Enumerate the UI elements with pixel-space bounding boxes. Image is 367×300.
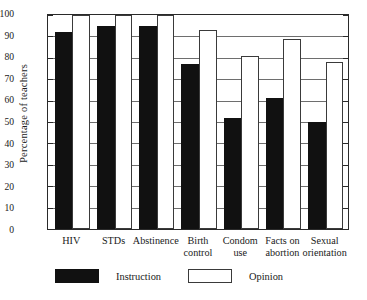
bar-group <box>220 15 262 229</box>
bar-opinion <box>326 62 344 229</box>
bar-instruction <box>139 26 157 229</box>
x-axis-tick-label-line: Sexual <box>292 235 358 247</box>
axis-tick-mark <box>48 229 53 230</box>
y-axis-tick-label: 30 <box>0 160 14 170</box>
bar-instruction <box>224 118 242 229</box>
y-axis-tick-label: 10 <box>0 203 14 213</box>
bar-opinion <box>72 15 90 229</box>
legend-label: Opinion <box>249 271 283 282</box>
legend-item: Opinion <box>188 269 283 283</box>
legend-swatch-instruction <box>55 269 99 283</box>
y-axis-tick-label: 50 <box>0 117 14 127</box>
y-axis-tick-label: 20 <box>0 182 14 192</box>
y-axis-tick-label: 80 <box>0 52 14 62</box>
legend-item: Instruction <box>55 269 161 283</box>
y-axis-title: Percentage of teachers <box>18 0 29 229</box>
bar-instruction <box>55 32 73 229</box>
bar-group <box>305 15 347 229</box>
bar-chart-figure: Percentage of teachers 01020304050607080… <box>0 0 367 300</box>
legend-swatch-opinion <box>188 269 232 283</box>
bar-group <box>93 15 135 229</box>
x-axis-tick-label: Sexualorientation <box>292 235 358 258</box>
bar-opinion <box>157 15 175 229</box>
bar-opinion <box>115 15 133 229</box>
x-axis-tick-label-line: orientation <box>292 247 358 259</box>
y-axis-tick-label: 60 <box>0 95 14 105</box>
bar-group <box>136 15 178 229</box>
y-axis-tick-label: 100 <box>0 9 14 19</box>
y-axis-tick-label: 0 <box>0 225 14 235</box>
bar-group <box>51 15 93 229</box>
y-axis-tick-label: 40 <box>0 139 14 149</box>
legend-label: Instruction <box>116 271 161 282</box>
plot-area <box>47 14 349 230</box>
bar-group <box>178 15 220 229</box>
bar-instruction <box>266 98 284 229</box>
bar-instruction <box>308 122 326 229</box>
bar-instruction <box>97 26 115 229</box>
bar-group <box>262 15 304 229</box>
y-axis-tick-label: 90 <box>0 31 14 41</box>
bar-opinion <box>199 30 217 229</box>
plot-inner <box>48 15 348 229</box>
axis-tick-mark <box>343 229 348 230</box>
chart-legend: InstructionOpinion <box>0 269 367 295</box>
bar-opinion <box>241 56 259 229</box>
bar-instruction <box>181 64 199 229</box>
bar-opinion <box>283 39 301 229</box>
y-axis-tick-label: 70 <box>0 74 14 84</box>
